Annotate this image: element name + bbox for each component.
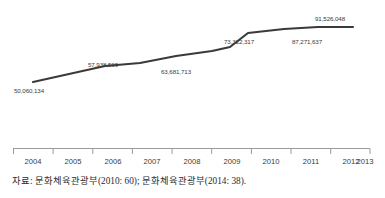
chart-plot-svg: [0, 0, 385, 170]
x-tick-label-2007: 2007: [132, 158, 172, 166]
x-tick-label-2011: 2011: [291, 158, 331, 166]
data-label-2006: 57,938,569: [88, 62, 118, 68]
data-label-2008: 63,681,713: [161, 69, 191, 75]
data-label-2004: 50,060,134: [14, 88, 44, 94]
x-tick-label-2005: 2005: [53, 158, 93, 166]
data-label-2012: 87,271,637: [292, 39, 322, 45]
x-tick-label-2004: 2004: [13, 158, 53, 166]
data-line-series: [33, 27, 353, 82]
line-chart-figure: 50,060,134 57,938,569 63,681,713 73,322,…: [0, 0, 385, 198]
x-tick-label-2006: 2006: [93, 158, 133, 166]
x-tick-label-2009: 2009: [212, 158, 252, 166]
data-label-2010: 73,322,317: [224, 39, 254, 45]
x-tick-label-2008: 2008: [172, 158, 212, 166]
plot-area: 50,060,134 57,938,569 63,681,713 73,322,…: [0, 0, 385, 170]
x-tick-label-2010: 2010: [251, 158, 291, 166]
source-note: 자료: 문화체육관광부(2010: 60); 문화체육관광부(2014: 38)…: [12, 176, 246, 186]
x-axis-ticks: [14, 149, 371, 155]
data-label-2013: 91,526,048: [315, 16, 345, 22]
x-tick-label-2013: 2013: [345, 158, 385, 166]
